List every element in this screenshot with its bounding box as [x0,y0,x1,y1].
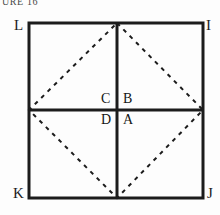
quadrant-label-d: D [101,113,111,127]
figure-drawing [0,0,220,215]
quadrant-label-c: C [101,92,110,106]
vertex-label-i: I [206,18,211,33]
geometry-figure: URE 16 L I J K C B D A [0,0,220,215]
vertex-label-l: L [14,18,23,33]
vertex-label-j: J [207,186,213,201]
quadrant-label-a: A [123,113,133,127]
vertex-label-k: K [13,186,24,201]
quadrant-label-b: B [123,92,132,106]
